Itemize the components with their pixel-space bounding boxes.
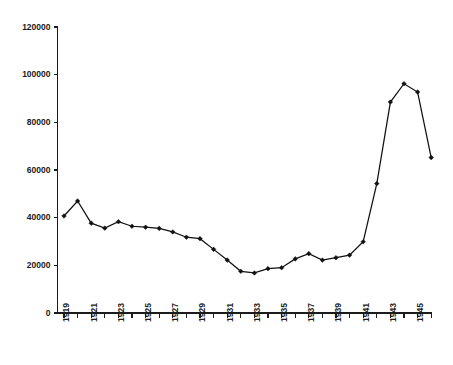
y-axis-tick-label: 100000 — [22, 69, 51, 79]
data-point-marker — [429, 155, 434, 160]
x-axis: 1919192119231925192719291931193319351937… — [58, 303, 433, 322]
y-axis-tick-label: 20000 — [27, 260, 51, 270]
x-axis-tick-label: 1927 — [170, 303, 180, 322]
data-point-marker — [307, 251, 312, 256]
x-axis-tick-label: 1935 — [279, 303, 289, 322]
y-axis: 020000400006000080000100000120000 — [22, 22, 57, 318]
chart-canvas: 020000400006000080000100000120000 191919… — [0, 0, 453, 365]
x-axis-tick-label: 1939 — [333, 303, 343, 322]
data-point-marker — [184, 235, 189, 240]
data-point-marker — [103, 226, 108, 231]
x-axis-tick-label: 1921 — [89, 303, 99, 322]
y-axis-tick-label: 60000 — [27, 165, 51, 175]
data-series — [64, 84, 431, 273]
x-axis-tick-label: 1937 — [306, 303, 316, 322]
x-axis-tick-label: 1931 — [225, 303, 235, 322]
y-axis-tick-label: 120000 — [22, 22, 51, 32]
y-axis-tick-label: 80000 — [27, 117, 51, 127]
x-axis-tick-label: 1945 — [415, 303, 425, 322]
data-point-marker — [320, 258, 325, 263]
y-axis-tick-label: 40000 — [27, 212, 51, 222]
data-point-marker — [266, 266, 271, 271]
series-line — [64, 84, 431, 273]
data-point-marker — [375, 181, 380, 186]
x-axis-tick-label: 1933 — [252, 303, 262, 322]
x-axis-tick-label: 1919 — [61, 303, 71, 322]
data-point-marker — [157, 226, 162, 231]
x-axis-tick-label: 1923 — [116, 303, 126, 322]
data-point-marker — [130, 224, 135, 229]
data-point-marker — [334, 255, 339, 260]
x-axis-tick-label: 1941 — [361, 303, 371, 322]
data-point-marker — [116, 219, 121, 224]
x-axis-tick-label: 1925 — [143, 303, 153, 322]
data-point-marker — [171, 230, 176, 235]
y-axis-tick-label: 0 — [46, 308, 51, 318]
data-point-marker — [143, 225, 148, 230]
line-chart: 020000400006000080000100000120000 191919… — [0, 0, 453, 365]
x-axis-tick-label: 1943 — [388, 303, 398, 322]
plot-area: 020000400006000080000100000120000 191919… — [22, 22, 433, 322]
x-axis-tick-label: 1929 — [197, 303, 207, 322]
data-point-marker — [252, 271, 257, 276]
